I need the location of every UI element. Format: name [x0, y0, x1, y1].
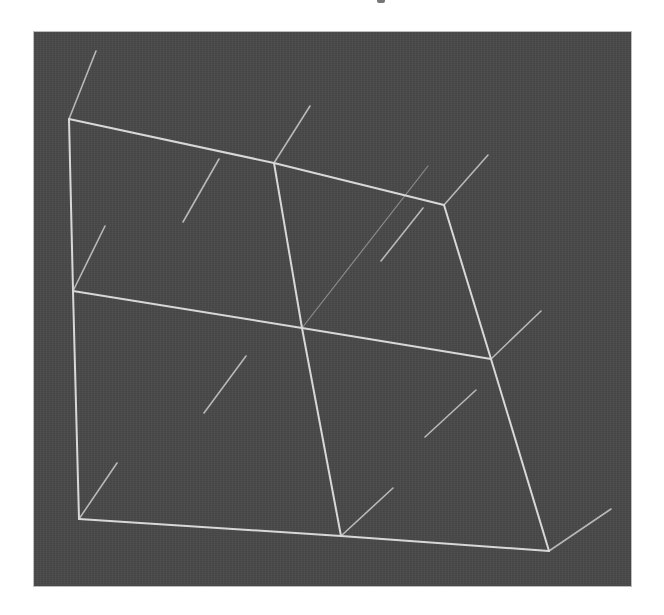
stub-layer [69, 51, 611, 551]
vertex-stub-line [549, 509, 611, 551]
vertex-stub-line [341, 488, 393, 536]
vertex-stub-line [73, 226, 105, 291]
face-stub-line [183, 159, 219, 222]
vertex-stub-line [274, 106, 310, 163]
faint-stub-line [302, 166, 428, 328]
wireframe-mesh [34, 32, 632, 587]
mesh-edge [73, 291, 302, 328]
mesh-edge [274, 163, 444, 205]
mesh-edge [69, 119, 73, 291]
mesh-edge [444, 205, 491, 359]
mesh-edge-layer [69, 119, 549, 551]
mesh-edge [491, 359, 549, 551]
mesh-edge [341, 536, 549, 551]
face-stub-line [381, 208, 423, 261]
face-stub-line [204, 356, 246, 413]
mesh-edge [79, 519, 341, 536]
mesh-edge [73, 291, 79, 519]
mesh-edge [302, 328, 491, 359]
cropped-caption-fragment [377, 0, 385, 3]
vertex-stub-line [491, 311, 541, 359]
mesh-edge [274, 163, 302, 328]
vertex-stub-line [79, 463, 117, 519]
face-stub-line [425, 390, 476, 437]
mesh-edge [69, 119, 274, 163]
vertex-stub-line [444, 155, 488, 205]
wireframe-viewport [33, 31, 632, 587]
faint-stub-layer [302, 166, 428, 328]
vertex-stub-line [69, 51, 96, 119]
mesh-edge [302, 328, 341, 536]
